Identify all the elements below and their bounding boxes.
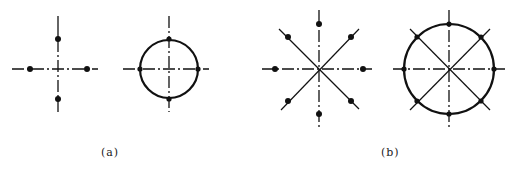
figure-a-circle	[123, 16, 209, 112]
point-ne	[348, 34, 354, 40]
diagram-canvas	[0, 0, 506, 171]
figure-b-caption: (b)	[381, 146, 400, 159]
point-n	[446, 21, 451, 26]
point-bottom	[166, 96, 171, 101]
point-n	[316, 21, 322, 27]
point-nw	[414, 34, 419, 39]
figure-b-star	[262, 10, 372, 128]
point-ne	[478, 34, 483, 39]
point-se	[478, 98, 483, 103]
point-nw	[285, 34, 291, 40]
figure-a-cross	[12, 16, 98, 112]
figure-a-caption: (a)	[101, 146, 119, 159]
point-sw	[285, 98, 291, 104]
point-left	[27, 66, 33, 72]
point-s	[316, 111, 322, 117]
point-e	[491, 66, 496, 71]
point-left	[137, 66, 142, 71]
point-top	[166, 36, 171, 41]
point-se	[348, 98, 354, 104]
point-w	[401, 66, 406, 71]
figure-b-circle	[393, 10, 505, 128]
point-e	[360, 66, 366, 72]
point-right	[195, 66, 200, 71]
point-sw	[414, 98, 419, 103]
point-s	[446, 111, 451, 116]
point-right	[84, 66, 90, 72]
point-w	[272, 66, 278, 72]
point-top	[55, 36, 61, 42]
point-bottom	[55, 96, 61, 102]
